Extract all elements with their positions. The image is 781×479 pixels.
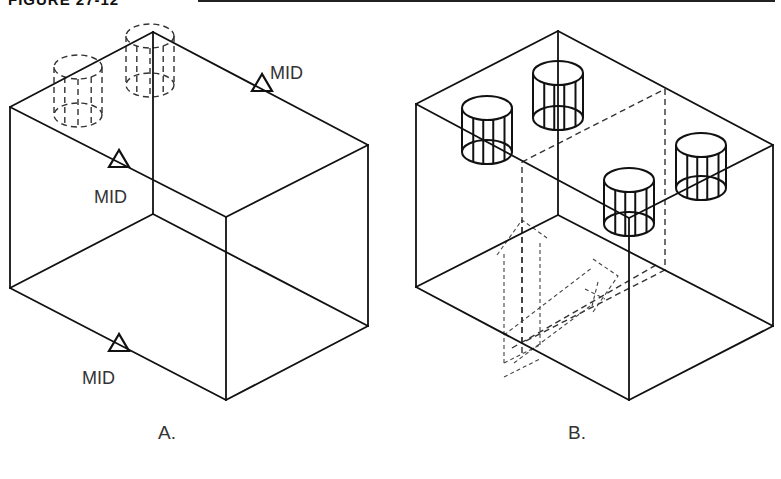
mid-marker-top-right-edge-label: MID xyxy=(270,63,303,83)
cylinder-back-left xyxy=(462,96,512,164)
cylinder-top-ellipse xyxy=(462,96,512,120)
box-edge xyxy=(10,288,226,400)
panel-b-caption: B. xyxy=(568,422,586,443)
mid-marker-bottom-left-edge-label: MID xyxy=(82,368,115,388)
mid-marker-top-left-edge-label: MID xyxy=(94,187,127,207)
ucs-x-axis xyxy=(512,264,658,348)
box-edge xyxy=(629,145,773,218)
ucs-base-lower xyxy=(504,359,540,377)
box-edge xyxy=(153,32,368,145)
box-edge xyxy=(153,214,368,326)
hidden-plane-edge xyxy=(522,270,665,343)
box-edge xyxy=(416,215,558,287)
box-edge xyxy=(226,326,368,400)
panel-a-box-with-mid-snaps: MIDMIDMIDA. xyxy=(10,24,368,443)
cylinder-top-ellipse xyxy=(54,55,102,79)
cylinder-top-ellipse xyxy=(676,133,726,157)
box-edge xyxy=(558,31,773,145)
ucs-cross-2 xyxy=(592,282,598,306)
panel-a-caption: A. xyxy=(158,422,176,443)
panel-b-box-with-cylinders-and-ucs: B. xyxy=(416,31,773,443)
isometric-drawing-canvas: MIDMIDMIDA. B. xyxy=(0,0,781,479)
box-edge xyxy=(629,326,773,400)
cylinder-top-ellipse xyxy=(126,24,174,48)
cylinder-top-ellipse xyxy=(604,168,654,192)
box-edge xyxy=(10,32,153,107)
ucs-x-arrow-top xyxy=(504,267,593,335)
hidden-cylinder-1 xyxy=(54,55,102,127)
box-edge xyxy=(226,145,368,217)
ucs-cross-1 xyxy=(585,289,605,299)
hidden-cylinder-2 xyxy=(126,24,174,97)
ucs-icon xyxy=(497,220,658,377)
box-edge xyxy=(10,214,153,288)
